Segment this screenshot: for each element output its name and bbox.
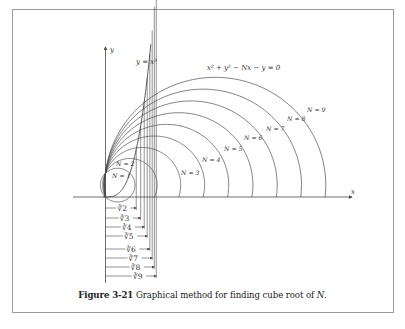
n-label-5: N = 5	[223, 145, 243, 152]
cube-root-label-3: ∛3	[120, 213, 130, 223]
caption-number: Figure 3-21	[78, 290, 133, 300]
n-labels: N = 1N = 2N = 3N = 4N = 5N = 6N = 7N = 8…	[111, 106, 326, 179]
y-axis-label: y	[109, 46, 115, 54]
cube-root-label-8: ∛8	[131, 262, 141, 272]
circle-family	[100, 77, 325, 202]
n-label-4: N = 4	[201, 156, 221, 163]
cube-root-dimensions: ∛2∛3∛4∛5∛6∛7∛8∛9	[106, 203, 157, 281]
cube-root-label-2: ∛2	[118, 203, 128, 213]
cube-root-label-5: ∛5	[124, 231, 134, 241]
n-label-3: N = 3	[180, 169, 200, 176]
n-label-8: N = 8	[286, 115, 306, 122]
figure-caption: Figure 3-21 Graphical method for finding…	[0, 290, 405, 300]
x-axis-label: x	[351, 188, 355, 196]
n-label-7: N = 7	[265, 125, 285, 132]
diagram-labels: y x y = x³ x² + y² − Nx − y = 0	[109, 46, 355, 196]
cube-root-label-6: ∛6	[126, 244, 136, 254]
n-label-1: N = 1	[111, 172, 130, 179]
caption-end: .	[324, 290, 327, 300]
circle-family-equation: x² + y² − Nx − y = 0	[207, 64, 281, 72]
n-label-9: N = 9	[306, 106, 326, 113]
cube-root-label-9: ∛9	[133, 271, 143, 281]
n-label-2: N = 2	[115, 160, 135, 167]
circle-n-9	[105, 77, 326, 197]
cubic-curve-label: y = x³	[135, 58, 157, 66]
n-label-6: N = 6	[243, 134, 263, 141]
cube-root-label-4: ∛4	[122, 222, 132, 232]
axes	[73, 47, 352, 283]
caption-text: Graphical method for finding cube root o…	[133, 290, 316, 300]
cube-root-diagram: ∛2∛3∛4∛5∛6∛7∛8∛9 y x y = x³ x² + y² − Nx…	[0, 0, 405, 329]
cube-root-label-7: ∛7	[129, 253, 139, 263]
caption-variable: N	[317, 290, 324, 300]
